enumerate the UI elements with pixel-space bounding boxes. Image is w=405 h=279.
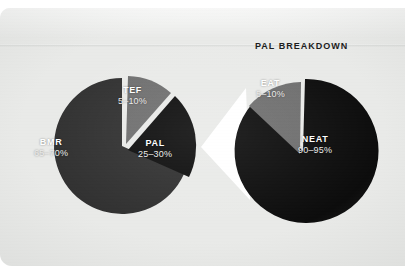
- screenshot-root: PAL BREAKDOWN BMR 65–70% TEF 5–10% PAL 2…: [0, 0, 405, 279]
- slice-label-tef-value: 5–10%: [118, 96, 147, 107]
- slice-label-neat-value: 90–95%: [298, 145, 332, 156]
- slice-label-pal-name: PAL: [138, 138, 172, 149]
- slice-label-bmr-name: BMR: [34, 137, 68, 148]
- slice-label-pal: PAL 25–30%: [138, 138, 172, 159]
- slice-label-eat-name: EAT: [256, 78, 285, 89]
- slice-label-eat: EAT 5–10%: [256, 78, 285, 99]
- slice-label-bmr: BMR 65–70%: [34, 137, 68, 158]
- slice-label-eat-value: 5–10%: [256, 89, 285, 100]
- page-title: PAL BREAKDOWN: [255, 41, 348, 51]
- slice-label-tef-name: TEF: [118, 85, 147, 96]
- figure-card: PAL BREAKDOWN BMR 65–70% TEF 5–10% PAL 2…: [0, 8, 405, 266]
- slice-label-neat-name: NEAT: [298, 134, 332, 145]
- slice-label-neat: NEAT 90–95%: [298, 134, 332, 155]
- slice-label-bmr-value: 65–70%: [34, 148, 68, 159]
- slice-label-pal-value: 25–30%: [138, 149, 172, 160]
- slice-label-tef: TEF 5–10%: [118, 85, 147, 106]
